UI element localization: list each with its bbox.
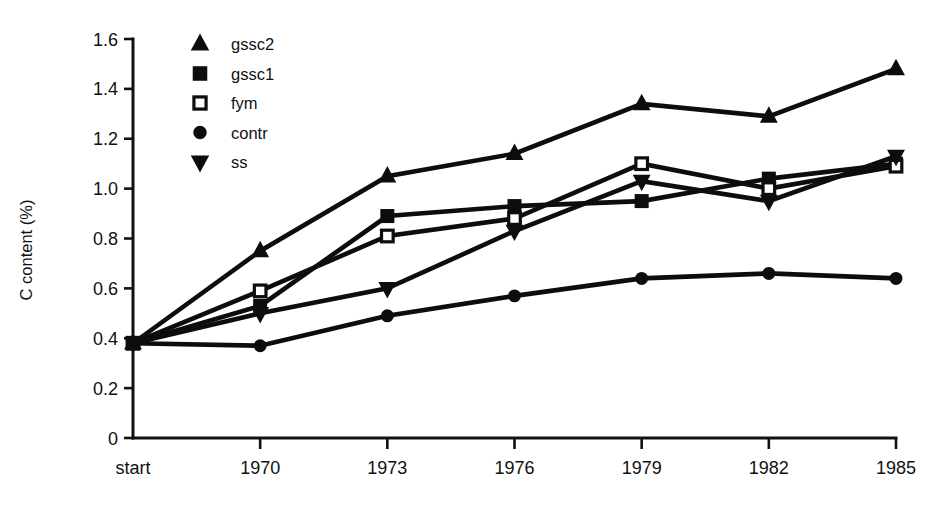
data-point-marker-circle [194, 127, 205, 138]
data-point-marker-circle [255, 340, 266, 351]
data-point-marker-circle [764, 268, 775, 279]
y-tick-label: 1.4 [93, 79, 118, 99]
x-tick-label: 1973 [367, 458, 407, 478]
y-axis-title: C content (%) [17, 200, 35, 301]
x-tick-label: start [115, 458, 150, 478]
x-tick-label: 1970 [240, 458, 280, 478]
y-tick-label: 1.6 [93, 30, 118, 50]
y-axis-tick-labels: 00.20.40.60.81.01.21.41.6 [93, 30, 118, 449]
legend-item-ss: ss [193, 153, 248, 171]
data-point-marker-triangle-up [193, 36, 207, 49]
x-axis-ticks [260, 438, 896, 449]
x-tick-label: 1979 [622, 458, 662, 478]
data-point-marker-square [194, 97, 206, 109]
data-point-marker-square [763, 183, 775, 195]
y-tick-label: 0.4 [93, 329, 118, 349]
y-tick-label: 1.2 [93, 129, 118, 149]
legend-item-gssc2: gssc2 [193, 35, 274, 53]
y-axis: 00.20.40.60.81.01.21.41.6 [93, 30, 133, 449]
line-chart: 00.20.40.60.81.01.21.41.6 start197019731… [0, 0, 941, 512]
data-point-marker-triangle-down [193, 157, 207, 170]
y-tick-label: 0.8 [93, 229, 118, 249]
legend-label: ss [231, 153, 248, 171]
data-point-marker-circle [382, 311, 393, 322]
legend-label: gssc2 [231, 35, 274, 53]
legend-label: fym [231, 94, 258, 112]
data-point-marker-square [382, 210, 394, 222]
legend-item-contr: contr [194, 124, 268, 142]
data-point-marker-square [382, 230, 394, 242]
data-point-marker-square [509, 213, 521, 225]
data-point-marker-square [509, 200, 521, 212]
x-tick-label: 1976 [494, 458, 534, 478]
data-point-marker-circle [509, 291, 520, 302]
x-axis-tick-labels: start197019731976197919821985 [115, 458, 916, 478]
x-tick-label: 1985 [876, 458, 916, 478]
y-tick-label: 0.6 [93, 279, 118, 299]
chart-canvas: 00.20.40.60.81.01.21.41.6 start197019731… [0, 0, 941, 512]
y-tick-label: 0.2 [93, 379, 118, 399]
x-axis: start197019731976197919821985 [115, 438, 916, 478]
data-point-marker-circle [636, 273, 647, 284]
legend-label: contr [231, 124, 268, 142]
data-point-marker-triangle-up [889, 61, 903, 74]
legend-item-fym: fym [194, 94, 258, 112]
legend-label: gssc1 [231, 65, 274, 83]
legend: gssc2gssc1fymcontrss [193, 35, 274, 171]
x-tick-label: 1982 [749, 458, 789, 478]
y-tick-label: 0 [108, 429, 118, 449]
legend-item-gssc1: gssc1 [194, 65, 274, 83]
data-point-marker-circle [891, 273, 902, 284]
y-tick-label: 1.0 [93, 179, 118, 199]
data-point-marker-square [254, 285, 266, 297]
data-point-marker-square [636, 158, 648, 170]
data-point-marker-square [194, 67, 206, 79]
data-point-marker-square [636, 195, 648, 207]
